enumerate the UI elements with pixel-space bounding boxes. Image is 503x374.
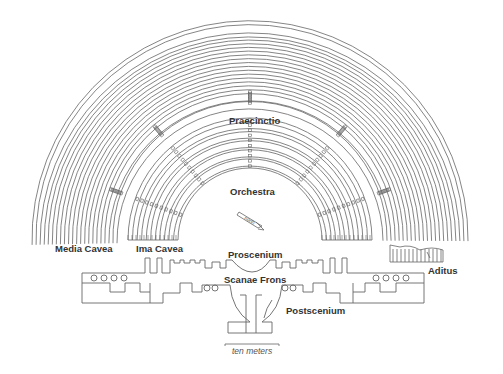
proscenium-wall [82, 258, 424, 273]
label-proscenium: Proscenium [228, 250, 282, 260]
media-cavea-rings [32, 21, 468, 245]
label-orchestra: Orchestra [230, 187, 275, 197]
label-scale: ten meters [232, 347, 272, 356]
label-aditus: Aditus [428, 266, 458, 276]
label-media-cavea: Media Cavea [55, 244, 113, 254]
aditus-structure [390, 245, 443, 262]
theatre-plan-diagram: Praecinctio Orchestra north Media Cavea … [0, 0, 503, 374]
label-postscenium: Postscenium [286, 306, 345, 316]
label-praecinctio: Praecinctio [229, 116, 280, 126]
label-ima-cavea: Ima Cavea [136, 244, 183, 254]
label-scanae-frons: Scanae Frons [224, 275, 286, 285]
scaena-building [82, 258, 424, 333]
